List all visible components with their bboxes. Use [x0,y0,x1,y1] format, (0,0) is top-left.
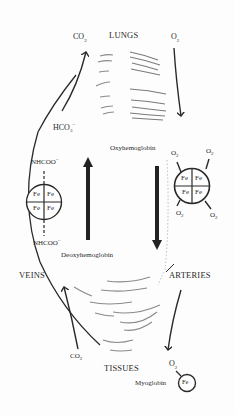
oxy-o2-ligand-4: O2 [210,212,218,220]
oxy-fe-3: Fe [182,189,189,196]
o2-delivery-arrow [168,290,181,350]
myoglobin-label: Myoglobin [135,380,166,387]
lung-shading-left [96,55,114,114]
deoxy-fe-2: Fe [47,191,54,198]
o2-lungs-label: O2 [171,33,179,43]
o2-uptake-arrow [174,48,181,116]
oxy-fe-1: Fe [181,175,188,182]
deoxyhemoglobin-heme-icon [27,171,62,236]
co2-lungs-label: CO2 [73,33,87,43]
co2-tissue-label: CO2 [70,353,82,361]
co2-release-arrow [62,52,86,111]
bicarbonate-label: HCO3− [53,122,75,133]
diagram-canvas: CO2 LUNGS O2 HCO3− Oxyhemoglobin NHCOO− … [0,0,235,415]
carbamate-top-label: NHCOO− [31,157,59,166]
oxy-o2-ligand-3: O2 [176,210,184,218]
co2-tissue-arrow [64,287,78,349]
oxyhemoglobin-label: Oxyhemoglobin [110,145,156,152]
carbamate-bottom-label: NHCOO− [33,238,61,247]
tissue-shading [74,277,160,351]
veins-label: VEINS [19,271,45,280]
deoxyhemoglobin-label: Deoxyhemoglobin [61,252,113,259]
lung-shading-right [130,52,166,120]
lungs-label: LUNGS [109,31,138,40]
deoxy-fe-4: Fe [47,205,54,212]
deoxy-fe-1: Fe [33,191,40,198]
myoglobin-fe-label: Fe [182,379,189,386]
tissues-label: TISSUES [104,364,139,373]
oxy-fe-2: Fe [195,175,202,182]
arteries-label: ARTERIES [169,271,211,280]
oxyhemoglobin-heme-icon [175,159,212,209]
o2-tissue-label: O2 [169,360,177,370]
oxy-o2-ligand-1: O2 [171,150,179,158]
deoxy-fe-3: Fe [33,205,40,212]
oxy-fe-4: Fe [195,189,202,196]
oxy-o2-ligand-2: O2 [206,148,214,156]
